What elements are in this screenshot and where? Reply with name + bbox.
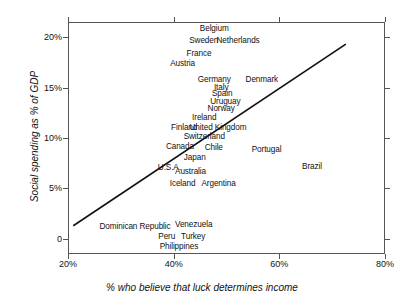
y-tick-label: 15% bbox=[44, 83, 62, 93]
plot-canvas bbox=[69, 23, 386, 255]
x-axis-title: % who believe that luck determines incom… bbox=[0, 282, 404, 293]
y-axis-tick-labels: 05%10%15%20% bbox=[26, 0, 62, 305]
x-tick-mark bbox=[68, 254, 69, 259]
y-tick-mark-right bbox=[385, 239, 390, 240]
point-label: Japan bbox=[184, 153, 206, 162]
x-tick-label: 80% bbox=[376, 259, 394, 269]
y-tick-label: 10% bbox=[44, 133, 62, 143]
y-tick-mark-right bbox=[385, 138, 390, 139]
point-label: Netherlands bbox=[217, 36, 260, 45]
x-tick-mark-top bbox=[68, 17, 69, 22]
point-label: United Kingdom bbox=[190, 122, 247, 131]
y-tick-mark bbox=[63, 138, 68, 139]
point-label: Austria bbox=[170, 59, 195, 68]
x-tick-mark bbox=[174, 254, 175, 259]
x-tick-mark-top bbox=[174, 17, 175, 22]
y-tick-mark-right bbox=[385, 188, 390, 189]
point-label: Denmark bbox=[246, 75, 279, 84]
point-label: Dominican Republic bbox=[100, 221, 171, 230]
point-label: Chile bbox=[205, 143, 223, 152]
point-label: Brazil bbox=[302, 162, 322, 171]
x-tick-mark-top bbox=[385, 17, 386, 22]
point-label: Norway bbox=[208, 103, 235, 112]
y-tick-mark bbox=[63, 88, 68, 89]
y-tick-mark bbox=[63, 239, 68, 240]
y-tick-mark bbox=[63, 188, 68, 189]
point-label: France bbox=[187, 49, 212, 58]
point-label: Iceland bbox=[170, 179, 196, 188]
point-label: Belgium bbox=[200, 24, 229, 33]
y-tick-mark-right bbox=[385, 37, 390, 38]
x-tick-label: 40% bbox=[165, 259, 183, 269]
x-tick-mark bbox=[385, 254, 386, 259]
point-label: Canada bbox=[166, 142, 194, 151]
point-label: Sweden bbox=[189, 36, 218, 45]
point-label: Switzerland bbox=[184, 131, 225, 140]
x-tick-mark-top bbox=[279, 17, 280, 22]
plot-area: BelgiumSwedenNetherlandsFranceAustriaGer… bbox=[68, 22, 385, 254]
y-tick-label: 0 bbox=[57, 234, 62, 244]
point-label: Argentina bbox=[201, 179, 235, 188]
y-tick-mark bbox=[63, 37, 68, 38]
scatter-plot-figure: Social spending as % of GDP 05%10%15%20%… bbox=[0, 0, 404, 305]
point-label: Venezuela bbox=[175, 219, 212, 228]
point-label: Philippines bbox=[160, 241, 199, 250]
x-tick-label: 60% bbox=[270, 259, 288, 269]
y-tick-label: 20% bbox=[44, 32, 62, 42]
point-label: Australia bbox=[175, 167, 206, 176]
x-tick-mark bbox=[279, 254, 280, 259]
point-label: Portugal bbox=[252, 145, 282, 154]
point-label: Peru bbox=[158, 231, 175, 240]
point-label: Ireland bbox=[192, 112, 216, 121]
y-tick-mark-right bbox=[385, 88, 390, 89]
point-label: Turkey bbox=[181, 231, 205, 240]
y-tick-label: 5% bbox=[49, 183, 62, 193]
x-tick-label: 20% bbox=[59, 259, 77, 269]
